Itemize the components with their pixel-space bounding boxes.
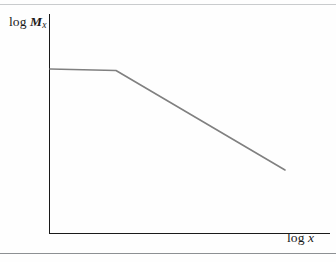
x-axis-label-op: log [287,230,305,245]
bottom-divider-rule [0,253,336,254]
y-axis-label-var: M [30,14,42,29]
data-series-group [50,69,285,170]
x-axis-label-var: x [308,230,314,245]
log-log-plot [0,0,336,262]
figure-root: log Mx log x [0,0,336,262]
data-line-log-mx [50,69,285,170]
y-axis-label-op: log [9,14,27,29]
y-axis-label: log Mx [9,15,46,31]
axes-group [50,14,331,234]
y-axis-label-subscript: x [42,20,46,30]
x-axis-label: log x [287,231,314,245]
